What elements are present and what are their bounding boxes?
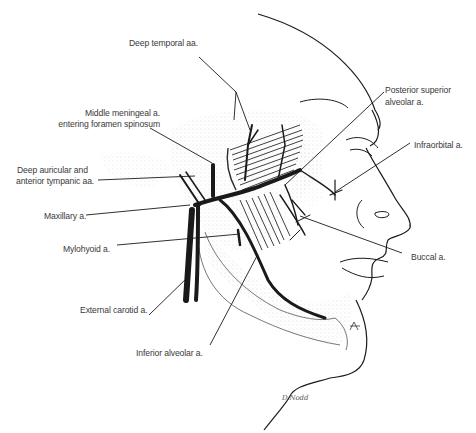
ala [357, 200, 364, 228]
label-external-carotid: External carotid a. [80, 305, 147, 316]
label-posterior-superior-line2: alveolar a. [385, 97, 424, 108]
label-infraorbital: Infraorbital a. [414, 140, 463, 151]
ear [300, 99, 348, 108]
label-deep-auricular-line1: Deep auricular and [17, 165, 88, 176]
label-maxillary: Maxillary a. [44, 211, 86, 222]
chin-mark [350, 322, 360, 330]
label-mylohyoid: Mylohyoid a. [63, 244, 110, 255]
label-middle-meningeal-line2: entering foramen spinosum [30, 119, 160, 130]
label-buccal: Buccal a. [411, 252, 445, 263]
label-deep-temporal: Deep temporal aa. [129, 38, 198, 49]
label-deep-auricular-line2: anterior tympanic aa. [16, 176, 94, 187]
eye [346, 138, 378, 148]
label-middle-meningeal-line1: Middle meningeal a. [55, 108, 160, 119]
nostril [375, 212, 389, 218]
anatomy-figure: Deep temporal aa. Middle meningeal a. en… [0, 0, 476, 433]
label-inferior-alveolar: Inferior alveolar a. [136, 348, 203, 359]
label-posterior-superior-line1: Posterior superior [385, 85, 451, 96]
external-carotid-artery [186, 210, 192, 300]
lips [340, 258, 388, 262]
artist-signature: D.Nodd [282, 393, 308, 404]
